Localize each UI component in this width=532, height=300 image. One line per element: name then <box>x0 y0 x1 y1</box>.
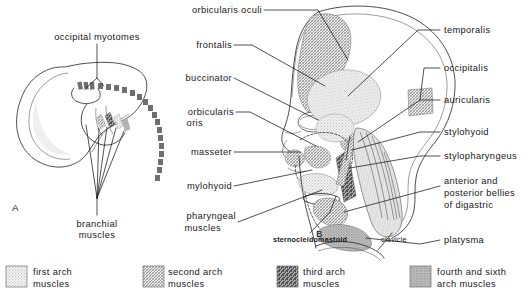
muscle-occipitalis <box>408 88 433 116</box>
panel-a-id: A <box>12 202 19 213</box>
label-auricularis: auricularis <box>444 95 490 105</box>
label-sternocleidomastoid: sternocleidomastoid <box>273 235 347 244</box>
label-digastric-line3: of digastric <box>444 200 493 210</box>
label-masseter: masseter <box>191 147 232 157</box>
label-mylohyoid: mylohyoid <box>187 181 232 191</box>
legend-label-first-arch-line2: muscles <box>33 279 70 289</box>
legend-label-first-arch-line1: first arch <box>33 267 72 277</box>
legend-label-third-arch-line2: muscles <box>303 279 340 289</box>
label-branchial-muscles-line2: muscles <box>79 230 116 240</box>
legend-swatch-third-arch <box>277 266 298 287</box>
label-orbicularis-oris-line1: orbicularis <box>188 107 234 117</box>
label-platysma: platysma <box>444 235 484 245</box>
label-pharyngeal-line2: muscles <box>184 223 221 233</box>
legend-label-fourth-sixth-arch-line2: arch muscles <box>437 279 496 289</box>
label-orbicularis-oculi: orbicularis oculi <box>192 5 262 15</box>
label-buccinator: buccinator <box>186 73 232 83</box>
label-stylohyoid: stylohyoid <box>444 127 489 137</box>
muscle-masseter <box>316 114 354 142</box>
legend-label-second-arch-line2: muscles <box>168 279 205 289</box>
legend-label-third-arch-line1: third arch <box>303 267 345 277</box>
label-occipital-myotomes: occipital myotomes <box>54 32 139 42</box>
label-pharyngeal-line1: pharyngeal <box>186 211 236 221</box>
label-temporalis: temporalis <box>444 25 490 35</box>
label-frontalis: frontalis <box>196 40 232 50</box>
legend-swatch-fourth-sixth-arch <box>410 266 431 287</box>
legend-label-fourth-sixth-arch-line1: fourth and sixth <box>437 267 506 277</box>
bottom-labels: sternocleidomastoid clavicle <box>273 235 407 244</box>
label-digastric-line2: posterior bellies <box>444 188 515 198</box>
label-clavicle: clavicle <box>381 235 407 244</box>
anatomy-figure: occipital myotomes branchial muscles A <box>0 0 532 300</box>
label-orbicularis-oris-line2: oris <box>187 118 203 128</box>
label-branchial-muscles-line1: branchial <box>77 219 118 229</box>
figure-background <box>0 0 532 300</box>
label-stylopharyngeus: stylopharyngeus <box>444 151 517 161</box>
label-occipitalis: occipitalis <box>444 63 488 73</box>
legend-swatch-first-arch <box>6 266 27 287</box>
label-digastric-line1: anterior and <box>444 176 498 186</box>
muscle-orbicularis-oris <box>285 150 304 167</box>
legend-label-second-arch-line1: second arch <box>168 267 223 277</box>
legend-swatch-second-arch <box>143 266 164 287</box>
